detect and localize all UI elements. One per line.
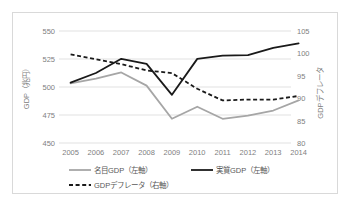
series-line-nominal-gdp bbox=[71, 72, 299, 118]
right-tick-105: 105 bbox=[297, 27, 310, 36]
right-tick-95: 95 bbox=[297, 72, 305, 81]
legend-label-real-gdp: 実質GDP（左軸） bbox=[216, 165, 274, 175]
right-tick-80: 80 bbox=[297, 139, 305, 148]
gdp-line-chart: 550 525 500 475 450 105 100 95 90 85 80 … bbox=[13, 13, 337, 193]
x-tick-2011: 2011 bbox=[215, 148, 231, 157]
x-tick-2014: 2014 bbox=[290, 148, 307, 157]
left-axis-ticks: 550 525 500 475 450 bbox=[42, 27, 55, 148]
x-tick-2009: 2009 bbox=[164, 148, 181, 157]
right-axis-title: GDPデフレータ bbox=[315, 67, 325, 118]
chart-container: 550 525 500 475 450 105 100 95 90 85 80 … bbox=[12, 12, 338, 194]
x-tick-2006: 2006 bbox=[88, 148, 105, 157]
x-tick-2008: 2008 bbox=[138, 148, 155, 157]
left-tick-500: 500 bbox=[42, 83, 55, 92]
chart-legend: 名目GDP（左軸） 実質GDP（左軸） GDPデフレータ（右軸） bbox=[69, 165, 274, 190]
left-tick-475: 475 bbox=[42, 111, 55, 120]
x-tick-2007: 2007 bbox=[113, 148, 130, 157]
left-axis-title: GDP（兆円） bbox=[21, 65, 31, 109]
legend-label-gdp-deflator: GDPデフレータ（右軸） bbox=[94, 180, 173, 190]
right-axis-ticks: 105 100 95 90 85 80 bbox=[297, 27, 310, 148]
legend-label-nominal-gdp: 名目GDP（左軸） bbox=[94, 165, 152, 175]
left-tick-450: 450 bbox=[42, 139, 55, 148]
x-axis-ticks: 2005 2006 2007 2008 2009 2010 2011 2012 … bbox=[62, 148, 307, 157]
gridlines bbox=[59, 31, 291, 143]
left-tick-525: 525 bbox=[42, 55, 55, 64]
x-tick-2013: 2013 bbox=[265, 148, 282, 157]
x-tick-2010: 2010 bbox=[189, 148, 206, 157]
x-tick-2012: 2012 bbox=[240, 148, 257, 157]
right-tick-100: 100 bbox=[297, 49, 310, 58]
x-tick-2005: 2005 bbox=[62, 148, 79, 157]
left-tick-550: 550 bbox=[42, 27, 55, 36]
right-tick-90: 90 bbox=[297, 94, 305, 103]
right-tick-85: 85 bbox=[297, 117, 305, 126]
